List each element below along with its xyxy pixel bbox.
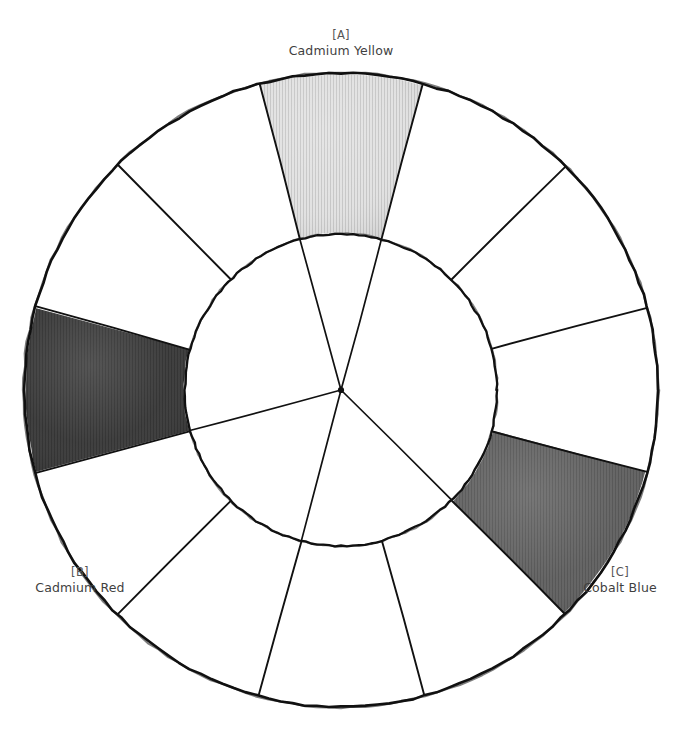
label-b-name: Cadmium Red — [2, 580, 158, 596]
label-c-name: Cobalt Blue — [564, 580, 676, 596]
label-cadmium-yellow: [A] Cadmium Yellow — [238, 28, 444, 59]
label-cobalt-blue: [C] Cobalt Blue — [564, 565, 676, 596]
label-c-key: [C] — [564, 565, 676, 580]
label-b-key: [B] — [2, 565, 158, 580]
label-a-name: Cadmium Yellow — [238, 43, 444, 59]
label-a-key: [A] — [238, 28, 444, 43]
color-wheel-figure: [A] Cadmium Yellow [B] Cadmium Red [C] C… — [0, 0, 676, 733]
label-cadmium-red: [B] Cadmium Red — [2, 565, 158, 596]
hub-center-point — [338, 387, 344, 393]
color-wheel-canvas — [0, 0, 676, 733]
